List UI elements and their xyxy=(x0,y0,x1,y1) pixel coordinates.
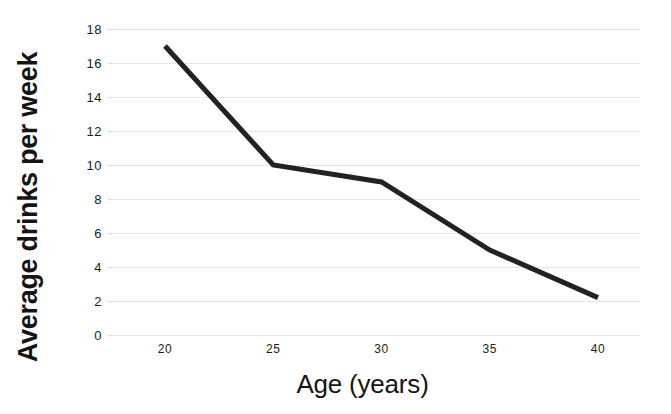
y-axis-tick-label: 12 xyxy=(87,125,102,138)
gridline xyxy=(108,131,640,132)
x-axis-tick-label: 20 xyxy=(158,343,172,355)
y-axis-tick-label: 6 xyxy=(94,227,102,240)
y-axis-tick-label: 2 xyxy=(94,295,102,308)
y-axis-tick-label: 0 xyxy=(94,329,102,342)
gridline xyxy=(108,165,640,166)
x-axis-tick-labels: 2025303540 xyxy=(0,343,671,363)
plot-area xyxy=(108,29,640,335)
y-axis-tick-label: 16 xyxy=(87,57,102,70)
gridline xyxy=(108,267,640,268)
x-axis-tick-label: 30 xyxy=(374,343,388,355)
y-axis-tick-label: 18 xyxy=(87,23,102,36)
x-axis-title: Age (years) xyxy=(0,369,671,400)
y-axis-tick-label: 14 xyxy=(87,91,102,104)
y-axis-tick-label: 10 xyxy=(87,159,102,172)
gridline xyxy=(108,63,640,64)
x-axis-tick-label: 25 xyxy=(266,343,280,355)
gridline xyxy=(108,29,640,30)
x-axis-tick-label: 40 xyxy=(591,343,605,355)
y-axis-tick-label: 8 xyxy=(94,193,102,206)
chart-figure: Average drinks per week 024681012141618 … xyxy=(0,0,671,414)
gridline xyxy=(108,301,640,302)
gridline xyxy=(108,97,640,98)
gridline xyxy=(108,233,640,234)
gridline xyxy=(108,199,640,200)
y-axis-tick-labels: 024681012141618 xyxy=(60,29,102,335)
x-axis-title-text: Age (years) xyxy=(296,369,428,400)
x-axis-tick-label: 35 xyxy=(483,343,497,355)
y-axis-tick-label: 4 xyxy=(94,261,102,274)
gridline xyxy=(108,335,640,336)
